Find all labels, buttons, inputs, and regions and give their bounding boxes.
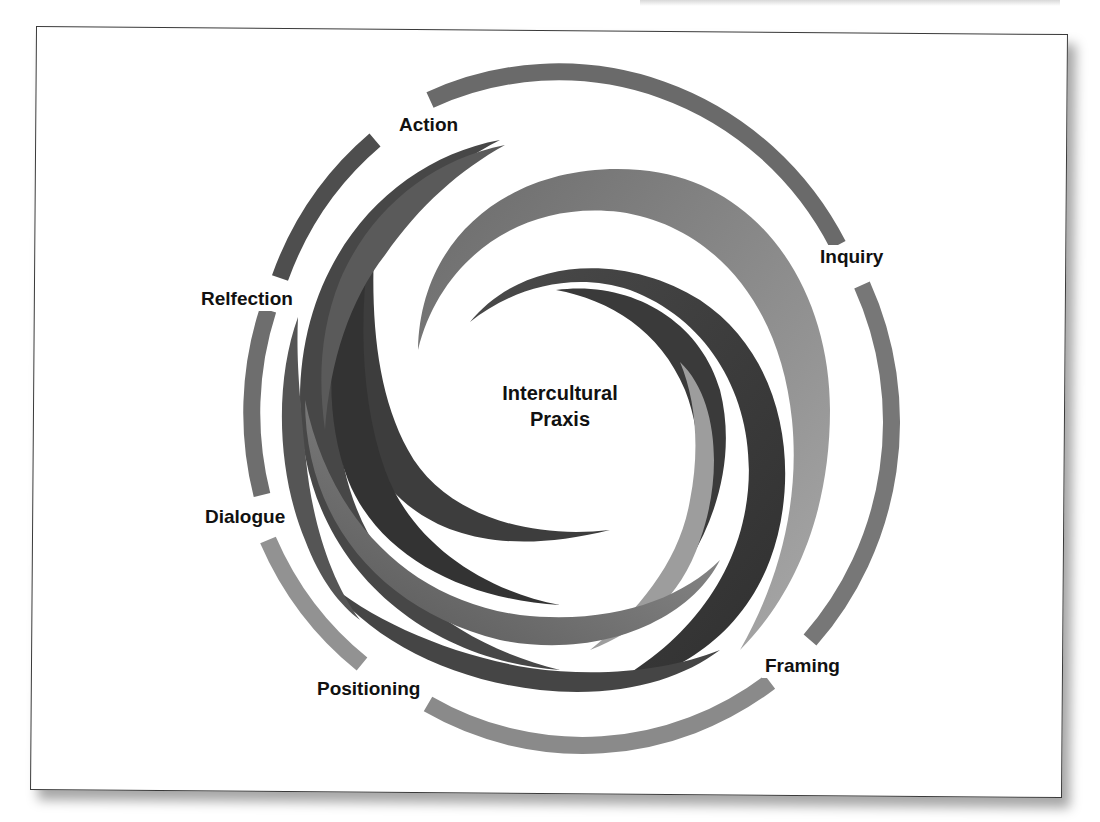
label-positioning: Positioning [314, 677, 423, 701]
label-framing: Framing [762, 654, 843, 678]
label-action: Action [396, 113, 461, 137]
ring-segment-framing-positioning [428, 682, 770, 745]
label-inquiry: Inquiry [817, 245, 886, 269]
center-label-line2: Praxis [470, 406, 650, 432]
label-dialogue: Dialogue [202, 505, 288, 529]
label-reflection: Relfection [198, 287, 296, 311]
ring-segment-dialogue-reflection [252, 310, 268, 495]
center-label-line1: Intercultural [470, 380, 650, 406]
center-label: Intercultural Praxis [470, 380, 650, 432]
